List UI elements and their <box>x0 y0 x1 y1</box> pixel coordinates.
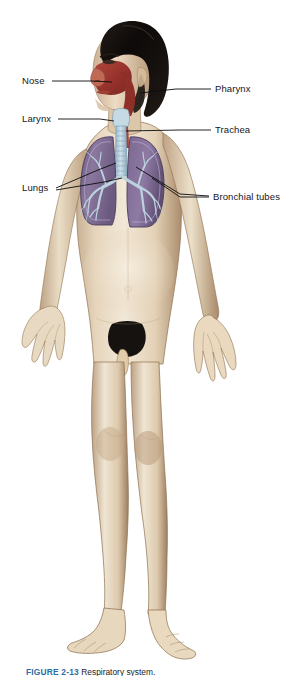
pubic-hair <box>108 321 146 357</box>
left-leg <box>92 362 129 612</box>
leader-larynx <box>58 119 114 121</box>
left-hand <box>22 306 65 366</box>
label-larynx: Larynx <box>22 113 51 124</box>
left-foot <box>68 608 126 653</box>
leader-nose <box>52 81 112 82</box>
head-group <box>91 21 169 117</box>
label-bronchial-tubes: Bronchial tubes <box>213 191 280 202</box>
figure-caption-text: Respiratory system. <box>81 667 155 676</box>
right-knee-shading <box>134 431 162 465</box>
label-lungs: Lungs <box>22 182 48 193</box>
right-foot <box>148 610 196 659</box>
anatomy-illustration <box>0 0 308 676</box>
figure-caption: FIGURE 2-13 Respiratory system. <box>26 667 296 676</box>
label-nose: Nose <box>22 75 45 86</box>
label-pharynx: Pharynx <box>215 83 251 94</box>
figure-container: Nose Larynx Lungs Pharynx Trachea Bronch… <box>0 0 308 676</box>
label-trachea: Trachea <box>215 124 250 135</box>
right-hand <box>194 315 236 381</box>
left-knee-shading <box>96 427 124 461</box>
figure-caption-number: FIGURE 2-13 <box>26 667 79 676</box>
right-leg <box>131 362 167 614</box>
larynx <box>113 109 130 128</box>
